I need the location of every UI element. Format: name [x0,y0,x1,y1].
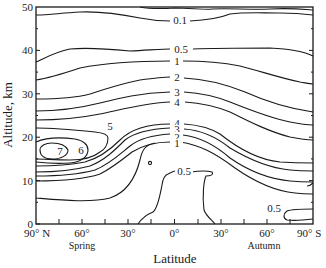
contour-label: 0.5 [174,43,188,55]
contour-label: 4 [174,96,180,108]
autumn-label: Autumn [248,240,281,251]
contour-label: 2 [174,71,180,83]
contour-chart: 0 10 20 30 40 50 Altitude, km 90° N 60° … [0,0,326,268]
x-tick-label: 30° [120,227,135,239]
x-tick-label: 30° [213,227,228,239]
contour-label: 5 [107,120,113,132]
y-tick-label: 40 [22,44,34,56]
x-tick-label: 90° N [24,227,50,239]
x-axis-title: Latitude [153,251,197,266]
contour-label: 0.5 [177,165,191,177]
y-tick-label: 50 [22,1,34,13]
y-tick-label: 20 [22,131,34,143]
x-tick-label: 0° [170,227,180,239]
contour-labels: 0.1 0.5 1 2 3 4 4 3 2 1 0.5 5 6 7 0.5 [57,14,281,214]
x-tick-label: 60° [74,227,89,239]
contour-label: 1 [174,55,180,67]
contour-label: 6 [78,144,84,156]
x-tick-label: 90° S [297,227,321,239]
y-tick-label: 10 [22,175,34,187]
x-axis: 90° N 60° 30° 0° 30° 60° 90° S Spring Au… [24,219,321,266]
contour-label: 7 [57,145,63,157]
x-tick-label: 60° [259,227,274,239]
contour-lines [36,7,313,224]
contour-label: 0.5 [267,202,281,214]
contour-label: 1 [174,137,180,149]
contour-label: 0.1 [173,14,187,26]
plot-frame [36,7,313,224]
y-axis-title: Altitude, km [0,82,15,148]
y-tick-label: 30 [22,88,34,100]
spring-label: Spring [69,240,96,251]
